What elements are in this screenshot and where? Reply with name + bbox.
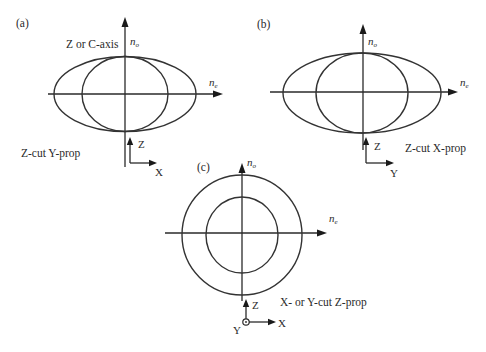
panel-b-z-label: Z [374,140,381,152]
panel-b-z-arrow-icon [363,137,369,145]
panel-b-up-arrow-icon [360,24,367,34]
panel-a-coordinate-axes: Z X [127,137,163,178]
panel-c-x-arrow-icon [268,319,276,325]
panel-c-y-label: Y [233,324,241,336]
panel-a-ne-label: ne [209,76,218,90]
panel-c-x-label: X [278,317,286,329]
panel-b-y-arrow-icon [386,160,394,166]
panel-c-caption: X- or Y-cut Z-prop [280,296,367,309]
panel-b-coordinate-axes: Z Y [363,137,398,179]
panel-b-tag: (b) [257,18,271,31]
panel-a-no-label: no [130,35,140,49]
panel-b-no-label: no [368,35,378,49]
panel-c: (c) no ne X- or Y-cut Z-prop Z Y X [165,156,367,336]
panel-a-tag: (a) [16,17,29,30]
panel-c-coordinate-axes: Z Y X [233,299,286,336]
panel-a-axis-label: Z or C-axis [66,38,119,50]
panel-c-z-arrow-icon [243,299,249,307]
panel-b-caption: Z-cut X-prop [405,142,466,155]
panel-a: (a) Z or C-axis no ne Z-cut Y-prop Z X [16,17,223,178]
panel-a-z-label: Z [138,138,145,150]
panel-b-ne-label: ne [460,76,469,90]
panel-b-inner-circle [316,53,408,133]
index-ellipse-diagram: (a) Z or C-axis no ne Z-cut Y-prop Z X (… [0,0,486,352]
panel-a-caption: Z-cut Y-prop [21,147,81,160]
panel-b-y-label: Y [390,167,398,179]
panel-c-ne-label: ne [329,212,338,226]
panel-b: (b) no ne Z-cut X-prop Z Y [257,18,469,179]
panel-a-x-label: X [155,166,163,178]
panel-c-right-arrow-icon [317,230,327,237]
panel-c-up-arrow-icon [239,163,246,173]
panel-a-z-arrow-icon [127,137,133,145]
panel-a-right-arrow-icon [213,91,223,98]
panel-c-no-label: no [247,156,257,170]
panel-b-right-arrow-icon [448,89,458,96]
panel-b-outer-ellipse [283,53,441,133]
panel-c-tag: (c) [197,161,210,174]
panel-c-z-label: Z [252,299,259,311]
panel-a-up-arrow-icon [122,17,129,27]
